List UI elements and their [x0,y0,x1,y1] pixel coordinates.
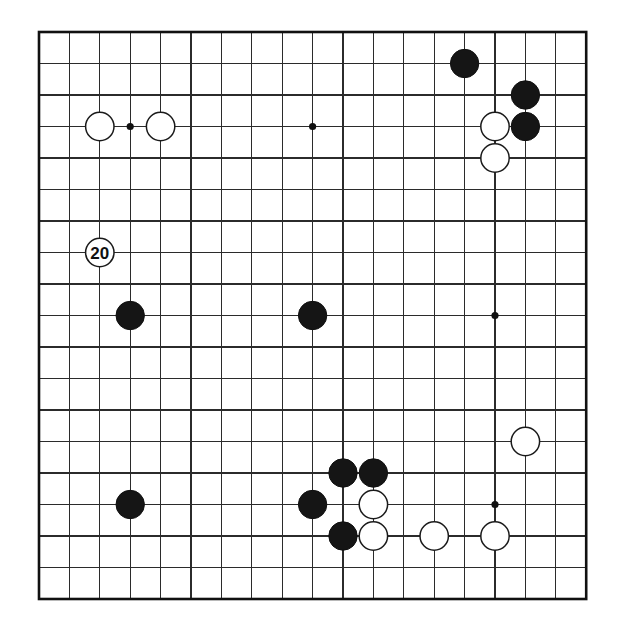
white-stone[interactable] [481,522,509,550]
stone-black-16-3[interactable] [511,112,539,140]
stone-black-14-1[interactable] [450,49,478,77]
stone-black-3-15[interactable] [116,490,144,518]
go-board[interactable]: 20 [0,0,629,642]
stone-white-11-15[interactable] [359,490,387,518]
black-stone[interactable] [329,459,357,487]
star-point [491,312,498,319]
stone-white-15-4[interactable] [481,144,509,172]
stone-white-2-3[interactable] [86,112,114,140]
stone-black-9-9[interactable] [298,301,326,329]
stone-black-10-14[interactable] [329,459,357,487]
white-stone[interactable] [86,112,114,140]
stone-white-2-7[interactable]: 20 [86,238,114,266]
star-point [127,123,134,130]
black-stone[interactable] [511,81,539,109]
stone-black-9-15[interactable] [298,490,326,518]
stone-white-16-13[interactable] [511,427,539,455]
stone-black-16-2[interactable] [511,81,539,109]
black-stone[interactable] [116,301,144,329]
white-stone[interactable] [359,522,387,550]
black-stone[interactable] [450,49,478,77]
black-stone[interactable] [116,490,144,518]
stone-white-11-16[interactable] [359,522,387,550]
white-stone[interactable] [481,144,509,172]
stone-white-13-16[interactable] [420,522,448,550]
black-stone[interactable] [329,522,357,550]
stone-white-15-3[interactable] [481,112,509,140]
black-stone[interactable] [511,112,539,140]
star-point [309,123,316,130]
stone-white-15-16[interactable] [481,522,509,550]
black-stone[interactable] [298,490,326,518]
go-board-diagram: 20 [0,0,629,642]
star-point [491,501,498,508]
stone-white-4-3[interactable] [146,112,174,140]
white-stone[interactable] [359,490,387,518]
stone-move-number: 20 [90,244,109,263]
white-stone[interactable] [420,522,448,550]
stone-black-10-16[interactable] [329,522,357,550]
white-stone[interactable] [511,427,539,455]
black-stone[interactable] [298,301,326,329]
white-stone[interactable] [481,112,509,140]
white-stone[interactable] [146,112,174,140]
stone-black-3-9[interactable] [116,301,144,329]
black-stone[interactable] [359,459,387,487]
stone-black-11-14[interactable] [359,459,387,487]
